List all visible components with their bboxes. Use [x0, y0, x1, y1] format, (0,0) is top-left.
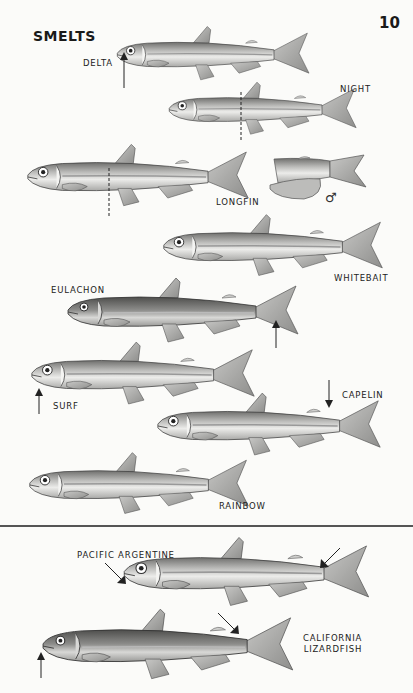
- label-line-1: CALIFORNIA: [303, 633, 362, 644]
- fish-label-night: NIGHT: [340, 84, 371, 95]
- section-divider: [0, 525, 413, 527]
- fish-label-longfin: LONGFIN: [216, 197, 259, 208]
- fish-pacific-argentine-illustration: [120, 530, 375, 615]
- arrow-icon: [272, 320, 280, 348]
- page-title: SMELTS: [33, 28, 96, 44]
- dashed-line-marker: [240, 92, 242, 142]
- fish-label-california-lizardfish: CALIFORNIA LIZARDFISH: [303, 633, 362, 655]
- fish-label-surf: SURF: [53, 401, 79, 412]
- arrow-icon: [218, 613, 240, 635]
- fish-eulachon-illustration: [64, 276, 304, 346]
- field-guide-page: SMELTS 10 DELTA NIGHT LONGFIN ♂ WHITEBAI…: [0, 0, 413, 693]
- arrow-icon: [120, 52, 128, 88]
- fish-label-whitebait: WHITEBAIT: [334, 273, 388, 284]
- fish-delta-illustration: [114, 24, 314, 84]
- fish-night-illustration: [166, 80, 361, 138]
- arrow-icon: [320, 548, 340, 568]
- fish-label-rainbow: RAINBOW: [219, 501, 266, 512]
- male-symbol-icon: ♂: [325, 190, 337, 205]
- dashed-line-marker: [108, 168, 110, 218]
- fish-california-lizardfish-illustration: [28, 607, 310, 683]
- arrow-icon: [35, 388, 43, 414]
- page-number: 10: [379, 14, 400, 32]
- fish-label-delta: DELTA: [83, 58, 113, 69]
- label-line-2: LIZARDFISH: [303, 644, 362, 655]
- longfin-male-inset-illustration: [268, 155, 368, 215]
- fish-whitebait-illustration: [160, 212, 388, 280]
- arrow-icon: [37, 652, 45, 678]
